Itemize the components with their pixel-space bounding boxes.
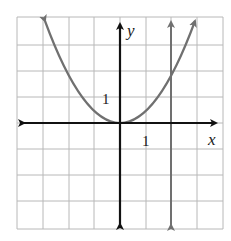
x-tick-label: 1 xyxy=(142,133,150,149)
y-axis-label: y xyxy=(125,21,135,40)
coordinate-graph: y x 1 1 xyxy=(0,0,231,241)
y-tick-label: 1 xyxy=(102,91,110,107)
x-axis-label: x xyxy=(207,130,216,149)
